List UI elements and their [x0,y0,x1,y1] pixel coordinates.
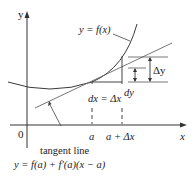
tangent-equation: y = f(a) + f′(a)(x − a) [13,159,106,171]
delta-y-label: Δy [153,64,166,76]
y-axis-arrow-icon [25,11,30,18]
x-axis-label: x [179,130,185,142]
dy-label: dy [124,87,134,98]
y-axis-label: y [18,8,24,20]
x-axis-arrow-icon [180,123,187,128]
curve-label: y = f(x) [78,24,111,36]
origin-label: 0 [18,128,24,140]
dx-label: dx = Δx [88,93,121,104]
tick-a: a [89,131,94,142]
differential-diagram: y x 0 y = f(x) Δy dy dx = Δx a a + Δx ta… [0,0,194,178]
tangent-label: tangent line [40,145,90,156]
tick-a-plus-dx: a + Δx [106,131,135,142]
